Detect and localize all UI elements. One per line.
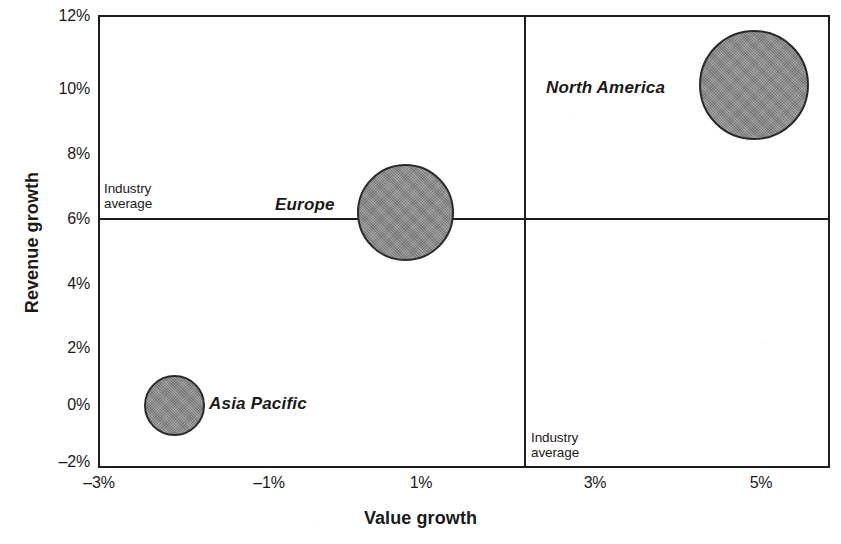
x-tick-neg1: –1%	[234, 474, 304, 492]
x-tick-neg3: –3%	[64, 474, 134, 492]
bubble-chart: Industry average Industry average 12% 10…	[0, 0, 841, 544]
x-axis-title: Value growth	[0, 508, 841, 529]
y-tick-12: 12%	[34, 8, 90, 24]
bubble-north-america	[699, 30, 809, 140]
y-axis-title: Revenue growth	[22, 93, 43, 393]
bubble-asia-pacific	[144, 375, 205, 436]
y-tick-0: 0%	[34, 397, 90, 413]
bubble-label-europe: Europe	[275, 195, 335, 215]
industry-average-vertical-line	[524, 15, 526, 468]
industry-average-horizontal-line	[98, 218, 830, 220]
x-tick-5: 5%	[726, 474, 796, 492]
industry-average-horizontal-label: Industry average	[104, 181, 152, 211]
x-tick-1: 1%	[386, 474, 456, 492]
bubble-label-asia-pacific: Asia Pacific	[209, 394, 307, 414]
industry-average-vertical-label: Industry average	[531, 430, 579, 460]
x-axis-tick-labels: –3% –1% 1% 3% 5%	[0, 474, 841, 498]
y-tick-neg2: –2%	[34, 454, 90, 470]
bubble-europe	[357, 164, 454, 261]
x-tick-3: 3%	[560, 474, 630, 492]
bubble-label-north-america: North America	[546, 78, 665, 98]
